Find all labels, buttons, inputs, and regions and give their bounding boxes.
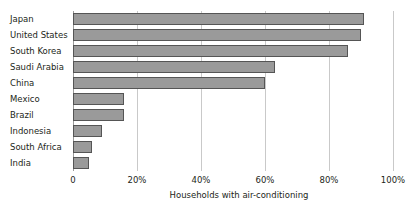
category-label: Saudi Arabia	[0, 59, 62, 75]
bar	[73, 29, 361, 41]
x-tick-label: 100%	[381, 174, 405, 186]
bar	[73, 61, 275, 73]
x-tick-label: 20%	[128, 174, 147, 186]
bar	[73, 77, 265, 89]
plot-area	[73, 11, 393, 171]
bar-chart: JapanUnited StatesSouth KoreaSaudi Arabi…	[0, 0, 420, 213]
bar	[73, 45, 348, 57]
bar-row	[73, 11, 393, 27]
x-tick-label: 0	[70, 174, 75, 186]
category-label: Japan	[0, 11, 62, 27]
x-axis-title: Households with air-conditioning	[0, 190, 420, 200]
bar-row	[73, 59, 393, 75]
x-axis-tick-labels: 020%40%60%80%100%	[73, 174, 393, 188]
bar-row	[73, 139, 393, 155]
category-label: Indonesia	[0, 123, 62, 139]
category-label: South Africa	[0, 139, 62, 155]
bar	[73, 93, 124, 105]
category-label: United States	[0, 27, 62, 43]
category-label: South Korea	[0, 43, 62, 59]
bar-row	[73, 123, 393, 139]
x-tick-label: 40%	[192, 174, 211, 186]
x-tick-label: 80%	[320, 174, 339, 186]
bar	[73, 157, 89, 169]
bar	[73, 109, 124, 121]
bar	[73, 125, 102, 137]
bar	[73, 141, 92, 153]
bar-row	[73, 27, 393, 43]
category-label: Mexico	[0, 91, 62, 107]
bar-row	[73, 91, 393, 107]
bar-row	[73, 43, 393, 59]
category-axis-labels: JapanUnited StatesSouth KoreaSaudi Arabi…	[0, 11, 68, 171]
bar-row	[73, 75, 393, 91]
bar-series	[73, 11, 393, 171]
x-tick-label: 60%	[256, 174, 275, 186]
category-label: China	[0, 75, 62, 91]
bar-row	[73, 107, 393, 123]
bar-row	[73, 155, 393, 171]
category-label: Brazil	[0, 107, 62, 123]
bar	[73, 13, 364, 25]
category-label: India	[0, 155, 62, 171]
gridline-100	[393, 11, 394, 171]
